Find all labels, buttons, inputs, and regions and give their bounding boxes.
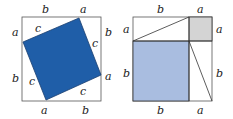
label-c-right: c [92,37,98,50]
label-top-b: b [42,3,49,16]
label-left-b: b [123,67,130,80]
label-bottom-a: a [197,104,204,117]
label-c-left: c [29,75,35,88]
label-top-b: b [157,3,164,16]
pythagorean-proof-diagrams: b a a b b a a b c c c c b a a b a b b a [0,0,233,119]
label-bottom-a: a [41,104,48,117]
label-right-a: a [105,70,112,83]
left-diagram: b a a b b a a b c c c c [12,3,112,117]
label-right-b: b [216,67,223,80]
right-diagram: b a a b a b b a [123,3,223,117]
label-bottom-b: b [157,104,164,117]
label-left-a: a [12,26,19,39]
a-squared-grey [189,17,212,41]
label-c-top: c [35,22,41,35]
b-squared-light-blue [133,41,189,101]
label-left-a: a [123,23,130,36]
label-right-a: a [216,23,223,36]
label-bottom-b: b [82,104,89,117]
label-left-b: b [12,72,19,85]
label-top-a: a [197,3,204,16]
label-c-bottom: c [80,85,86,98]
label-top-a: a [80,3,87,16]
label-right-b: b [105,26,112,39]
